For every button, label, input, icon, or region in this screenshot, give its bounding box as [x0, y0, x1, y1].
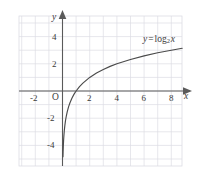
- x-axis-label: x: [184, 92, 188, 102]
- x-tick-label-2: 2: [87, 94, 92, 103]
- curve-label-log: log: [155, 34, 167, 44]
- x-tick-label-neg2: -2: [30, 94, 38, 103]
- y-tick-label-2: 2: [52, 60, 57, 69]
- y-tick-label-neg2: -2: [47, 114, 55, 123]
- log-curve: [63, 48, 182, 157]
- curve-label-equals: =: [147, 34, 154, 44]
- curve-label-argument: x: [171, 34, 175, 44]
- curve-label-base: 2: [167, 37, 170, 44]
- x-tick-label-4: 4: [115, 94, 120, 103]
- y-tick-label-4: 4: [52, 33, 57, 42]
- curve-equation-label: y=log2 x: [143, 35, 175, 45]
- coordinate-plane: [0, 0, 199, 176]
- y-tick-label-neg4: -4: [47, 141, 55, 150]
- x-tick-label-6: 6: [142, 94, 147, 103]
- y-axis-label: y: [52, 13, 56, 23]
- graph-figure: -2 O 2 4 6 8 4 2 -2 -4 y x y=log2 x: [0, 0, 199, 176]
- x-tick-label-8: 8: [169, 94, 174, 103]
- origin-label: O: [52, 93, 59, 103]
- y-axis-arrow-icon: [59, 10, 67, 19]
